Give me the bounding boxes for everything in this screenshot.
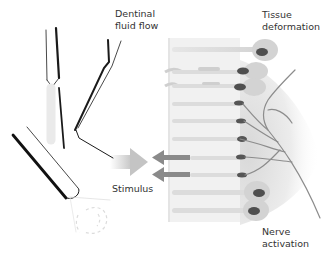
nucleus-icon <box>234 84 246 91</box>
tubule-row <box>172 119 246 124</box>
explorer-probe-icon <box>46 28 64 148</box>
label-dentinal-fluid-flow: Dentinal fluid flow <box>115 8 158 31</box>
hydrodynamic-diagram <box>0 0 335 256</box>
air-spray-icon <box>76 208 106 234</box>
nucleus-icon <box>256 48 268 56</box>
air-syringe-icon <box>13 127 110 232</box>
label-tissue-deformation: Tissue deformation <box>262 9 320 32</box>
nucleus-icon <box>248 207 260 215</box>
stimulus-arrow-icon <box>110 148 148 176</box>
nucleus-icon <box>237 68 249 75</box>
nucleus-icon <box>253 189 265 197</box>
label-nerve-activation: Nerve activation <box>262 226 309 249</box>
label-stimulus: Stimulus <box>112 183 153 195</box>
curved-probe-icon <box>75 40 121 158</box>
